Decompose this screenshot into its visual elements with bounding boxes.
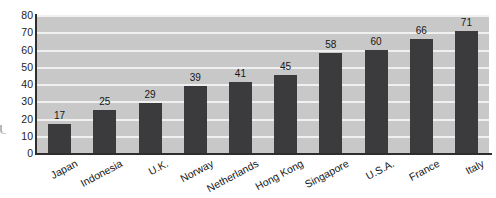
category-label-singapore: Singapore <box>303 157 351 190</box>
category-label-japan: Japan <box>48 157 79 181</box>
y-tick-label: 60 <box>7 44 33 56</box>
category-label-u-s-a: U.S.A. <box>363 157 395 182</box>
bar-hong-kong <box>274 75 297 153</box>
bar-france <box>410 39 433 153</box>
bar-u-s-a <box>365 50 388 154</box>
bar-value-label: 45 <box>280 61 291 72</box>
cropped-glyph-fragment <box>0 125 6 134</box>
bar-value-label: 60 <box>370 36 381 47</box>
y-tick-label: 40 <box>7 78 33 90</box>
y-tick-label: 20 <box>7 113 33 125</box>
category-label-hong-kong: Hong Kong <box>253 157 305 192</box>
category-label-italy: Italy <box>463 157 486 177</box>
x-axis-line <box>35 153 492 155</box>
bar-norway <box>184 86 207 153</box>
bar-value-label: 41 <box>235 68 246 79</box>
bar-value-label: 39 <box>190 72 201 83</box>
bar-value-label: 58 <box>325 39 336 50</box>
gridline <box>37 15 489 17</box>
bar-chart: 01020304050607080 17252939414558606671 J… <box>0 0 496 198</box>
bar-singapore <box>319 53 342 153</box>
bar-japan <box>48 124 71 153</box>
y-tick-label: 10 <box>7 130 33 142</box>
y-tick-label: 0 <box>7 147 33 159</box>
y-tick-label: 80 <box>7 9 33 21</box>
bar-value-label: 17 <box>54 110 65 121</box>
y-tick-label: 30 <box>7 95 33 107</box>
bar-u-k <box>139 103 162 153</box>
bar-netherlands <box>229 82 252 153</box>
bar-indonesia <box>93 110 116 153</box>
bar-value-label: 71 <box>461 17 472 28</box>
bar-value-label: 29 <box>144 89 155 100</box>
y-tick-label: 70 <box>7 26 33 38</box>
bar-value-label: 66 <box>416 25 427 36</box>
bar-value-label: 25 <box>99 96 110 107</box>
category-label-france: France <box>406 157 440 183</box>
category-label-indonesia: Indonesia <box>79 157 125 189</box>
category-label-u-k: U.K. <box>146 157 170 177</box>
bar-italy <box>455 31 478 153</box>
y-tick-label: 50 <box>7 61 33 73</box>
y-axis-line <box>35 14 37 155</box>
